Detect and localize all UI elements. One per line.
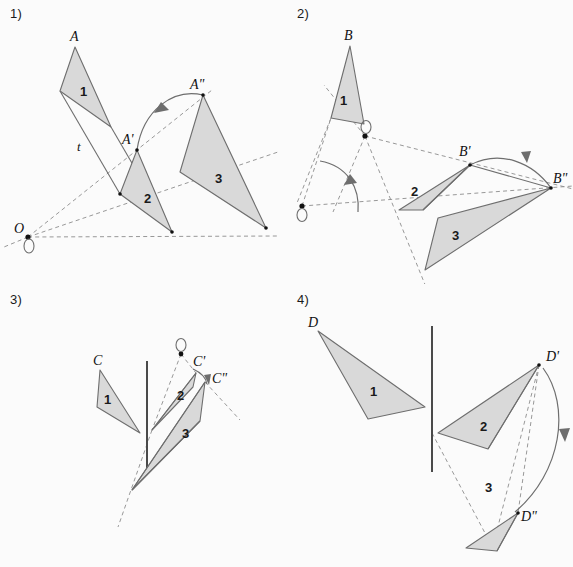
- triangle-2: [399, 165, 470, 210]
- panel-2-figure: B B' B" 1 2 3: [287, 0, 573, 284]
- triangle-3: [180, 95, 266, 228]
- link-bp-to-bpp: [470, 165, 551, 188]
- vertex-dot-2-bottom: [170, 230, 174, 234]
- translation-label-t: t: [77, 139, 81, 154]
- triangle-1: [331, 46, 364, 124]
- point-label-c-double-prime: C": [212, 371, 227, 386]
- vertex-dot-d-double-prime: [516, 511, 520, 515]
- point-label-d-prime: D': [545, 349, 560, 364]
- point-label-b-double-prime: B": [553, 171, 568, 186]
- point-label-b: B: [344, 28, 353, 43]
- rotation-loop-icon-2: [297, 209, 307, 222]
- vertex-dot-b-double-prime: [549, 186, 553, 190]
- rotation-centre-2-dot: [299, 203, 304, 208]
- ray-b-left-down: [297, 118, 331, 203]
- panel-3-figure: C C' C" 1 2 3: [0, 284, 287, 567]
- triangle-number-1: 1: [80, 84, 87, 99]
- triangle-number-1: 1: [104, 392, 111, 407]
- triangle-number-3: 3: [452, 228, 459, 243]
- triangle-number-2: 2: [177, 388, 184, 403]
- vertex-dot-2-left: [118, 192, 122, 196]
- ray-c1-down-left: [333, 136, 365, 212]
- angle-arc-arrowhead: [344, 174, 357, 185]
- rotation-arc-b: [470, 158, 551, 188]
- triangle-3: [425, 188, 551, 270]
- point-label-a-double-prime: A": [189, 77, 205, 92]
- point-label-a-prime: A': [121, 132, 135, 147]
- rotation-centre-1-dot: [362, 133, 367, 138]
- vertex-dot-a-prime: [135, 148, 139, 152]
- panel-4: 4) D D' D" 1 2 3: [287, 284, 573, 567]
- panel-1-figure: A A' A" O t 1 2 3: [0, 0, 287, 284]
- rotation-loop-icon: [176, 339, 186, 352]
- ray-c1-to-bottom: [365, 136, 428, 292]
- panel-4-figure: D D' D" 1 2 3: [287, 284, 573, 567]
- panel-1: 1) A: [0, 0, 287, 284]
- triangle-number-3: 3: [485, 480, 492, 495]
- point-label-d-double-prime: D": [520, 509, 537, 524]
- rotation-arc-d-arrowhead: [559, 428, 570, 442]
- triangle-number-3: 3: [215, 171, 222, 186]
- panel-3: 3) C C' C": [0, 284, 287, 567]
- ray-cpp-down-right: [205, 382, 240, 420]
- rotation-loop-icon-o: [24, 239, 34, 253]
- triangle-number-2: 2: [144, 191, 151, 206]
- vertex-dot-3-bottom: [264, 226, 268, 230]
- triangle-number-1: 1: [370, 384, 377, 399]
- triangle-1: [318, 331, 425, 419]
- point-label-d: D: [307, 315, 318, 330]
- link-2-to-bp: [423, 165, 470, 210]
- rotation-arc-a-arrowhead: [154, 102, 169, 113]
- triangle-2: [438, 365, 539, 449]
- triangle-number-1: 1: [340, 93, 347, 108]
- ray-o-to-base: [28, 236, 280, 237]
- vertex-dot-d-prime: [537, 363, 541, 367]
- point-label-o: O: [14, 221, 24, 236]
- link-tri3-lower: [132, 421, 200, 490]
- rotation-arc-b-arrowhead: [521, 151, 531, 163]
- link-cpp-base: [132, 382, 205, 490]
- rotation-loop-icon-1: [361, 121, 371, 134]
- triangle-number-2: 2: [480, 419, 487, 434]
- point-label-c: C: [93, 353, 103, 368]
- vertex-dot-a-double-prime: [201, 93, 205, 97]
- rotation-centre-dot: [179, 352, 184, 357]
- point-label-b-prime: B': [459, 144, 472, 159]
- triangle-number-2: 2: [411, 184, 418, 199]
- triangle-3: [466, 513, 518, 551]
- panel-2: 2): [287, 0, 573, 284]
- point-label-c-prime: C': [193, 354, 206, 369]
- figure-page: 1) A: [0, 0, 573, 567]
- point-label-a: A: [69, 29, 79, 44]
- triangle-number-3: 3: [182, 426, 189, 441]
- vertex-dot-b-prime: [468, 163, 472, 167]
